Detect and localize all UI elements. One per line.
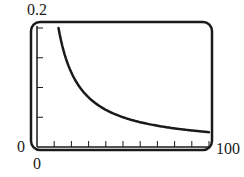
y-min-label: 0 xyxy=(17,139,25,155)
y-axis-ticks xyxy=(37,28,43,117)
y-max-label: 0.2 xyxy=(27,2,47,18)
x-min-label: 0 xyxy=(33,156,41,172)
chart-plot-area xyxy=(0,0,244,177)
x-axis-ticks xyxy=(54,141,209,147)
x-max-label: 100 xyxy=(216,141,240,157)
data-curve xyxy=(59,28,210,132)
